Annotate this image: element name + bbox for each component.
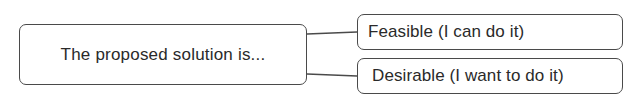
- branch-node-label: Feasible (I can do it): [368, 22, 524, 42]
- connector-to-desirable: [307, 74, 357, 76]
- branch-node-label: Desirable (I want to do it): [372, 66, 564, 86]
- connector-to-feasible: [307, 32, 357, 34]
- root-node: The proposed solution is...: [19, 24, 307, 85]
- root-node-label: The proposed solution is...: [61, 45, 266, 65]
- branch-node-desirable: Desirable (I want to do it): [357, 58, 623, 94]
- branch-node-feasible: Feasible (I can do it): [357, 14, 623, 50]
